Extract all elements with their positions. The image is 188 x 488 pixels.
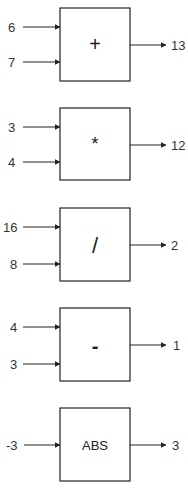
operator-label: - bbox=[92, 335, 99, 357]
input-label: 4 bbox=[10, 320, 17, 335]
output-label: 1 bbox=[173, 338, 180, 353]
output-label: 3 bbox=[172, 438, 179, 453]
input-label: 4 bbox=[8, 155, 15, 170]
input-label: 3 bbox=[10, 357, 17, 372]
block-subtract: 4 3 1 - bbox=[10, 308, 180, 381]
block-divide: 16 8 2 / bbox=[3, 208, 178, 281]
operator-label: ABS bbox=[82, 438, 108, 453]
input-label: 7 bbox=[8, 55, 15, 70]
output-label: 2 bbox=[171, 238, 178, 253]
block-add: 6 7 13 + bbox=[8, 8, 185, 81]
input-label: 8 bbox=[10, 257, 17, 272]
operator-label: * bbox=[91, 134, 98, 154]
output-label: 12 bbox=[171, 138, 185, 153]
input-label: -3 bbox=[6, 438, 18, 453]
input-label: 3 bbox=[8, 120, 15, 135]
operator-label: + bbox=[89, 33, 101, 55]
input-label: 6 bbox=[8, 20, 15, 35]
operator-diagram: 6 7 13 + 3 4 12 * 16 8 2 / 4 3 1 - bbox=[0, 0, 188, 488]
block-abs: -3 3 ABS bbox=[6, 408, 179, 481]
operator-label: / bbox=[92, 233, 99, 258]
output-label: 13 bbox=[171, 38, 185, 53]
input-label: 16 bbox=[3, 220, 17, 235]
block-multiply: 3 4 12 * bbox=[8, 108, 185, 180]
